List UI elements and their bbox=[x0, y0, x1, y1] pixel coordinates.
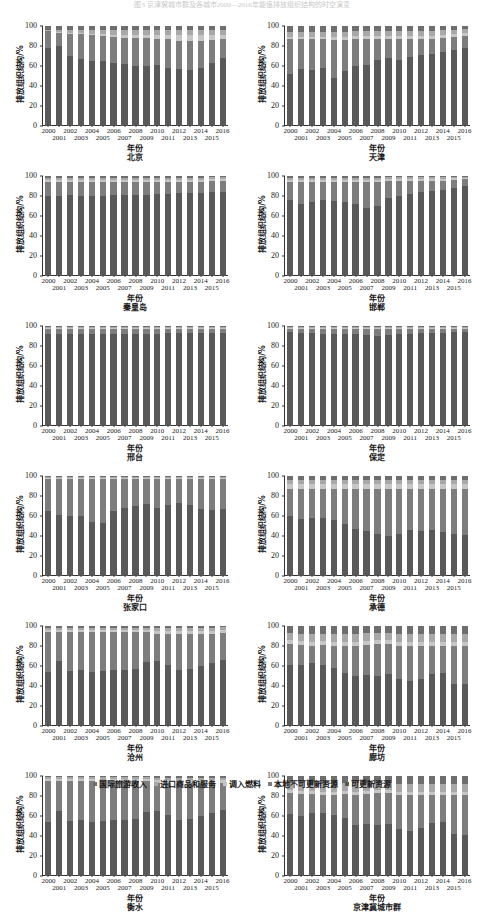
stacked-bar[interactable] bbox=[320, 776, 326, 876]
stacked-bar[interactable] bbox=[45, 776, 51, 876]
stacked-bar[interactable] bbox=[331, 776, 337, 876]
stacked-bar[interactable] bbox=[374, 626, 380, 726]
stacked-bar[interactable] bbox=[287, 326, 293, 426]
stacked-bar[interactable] bbox=[440, 326, 446, 426]
stacked-bar[interactable] bbox=[154, 176, 160, 276]
stacked-bar[interactable] bbox=[198, 476, 204, 576]
stacked-bar[interactable] bbox=[429, 176, 435, 276]
stacked-bar[interactable] bbox=[165, 776, 171, 876]
stacked-bar[interactable] bbox=[462, 776, 468, 876]
stacked-bar[interactable] bbox=[462, 26, 468, 126]
stacked-bar[interactable] bbox=[110, 626, 116, 726]
stacked-bar[interactable] bbox=[320, 176, 326, 276]
stacked-bar[interactable] bbox=[89, 326, 95, 426]
stacked-bar[interactable] bbox=[462, 626, 468, 726]
stacked-bar[interactable] bbox=[67, 626, 73, 726]
stacked-bar[interactable] bbox=[342, 626, 348, 726]
stacked-bar[interactable] bbox=[78, 476, 84, 576]
stacked-bar[interactable] bbox=[187, 776, 193, 876]
stacked-bar[interactable] bbox=[121, 326, 127, 426]
stacked-bar[interactable] bbox=[67, 326, 73, 426]
stacked-bar[interactable] bbox=[78, 326, 84, 426]
stacked-bar[interactable] bbox=[67, 476, 73, 576]
stacked-bar[interactable] bbox=[342, 776, 348, 876]
stacked-bar[interactable] bbox=[110, 776, 116, 876]
stacked-bar[interactable] bbox=[287, 776, 293, 876]
stacked-bar[interactable] bbox=[89, 626, 95, 726]
stacked-bar[interactable] bbox=[154, 626, 160, 726]
stacked-bar[interactable] bbox=[143, 476, 149, 576]
stacked-bar[interactable] bbox=[176, 476, 182, 576]
stacked-bar[interactable] bbox=[287, 26, 293, 126]
stacked-bar[interactable] bbox=[121, 776, 127, 876]
stacked-bar[interactable] bbox=[429, 326, 435, 426]
stacked-bar[interactable] bbox=[209, 176, 215, 276]
stacked-bar[interactable] bbox=[100, 326, 106, 426]
stacked-bar[interactable] bbox=[407, 26, 413, 126]
stacked-bar[interactable] bbox=[320, 326, 326, 426]
stacked-bar[interactable] bbox=[165, 626, 171, 726]
stacked-bar[interactable] bbox=[287, 476, 293, 576]
stacked-bar[interactable] bbox=[440, 176, 446, 276]
stacked-bar[interactable] bbox=[220, 476, 226, 576]
stacked-bar[interactable] bbox=[309, 476, 315, 576]
stacked-bar[interactable] bbox=[89, 476, 95, 576]
stacked-bar[interactable] bbox=[110, 476, 116, 576]
stacked-bar[interactable] bbox=[451, 326, 457, 426]
stacked-bar[interactable] bbox=[176, 26, 182, 126]
stacked-bar[interactable] bbox=[89, 776, 95, 876]
stacked-bar[interactable] bbox=[100, 776, 106, 876]
stacked-bar[interactable] bbox=[56, 476, 62, 576]
stacked-bar[interactable] bbox=[407, 626, 413, 726]
stacked-bar[interactable] bbox=[309, 176, 315, 276]
stacked-bar[interactable] bbox=[132, 26, 138, 126]
stacked-bar[interactable] bbox=[418, 26, 424, 126]
stacked-bar[interactable] bbox=[385, 476, 391, 576]
stacked-bar[interactable] bbox=[209, 26, 215, 126]
stacked-bar[interactable] bbox=[187, 626, 193, 726]
stacked-bar[interactable] bbox=[67, 176, 73, 276]
stacked-bar[interactable] bbox=[154, 326, 160, 426]
stacked-bar[interactable] bbox=[309, 776, 315, 876]
stacked-bar[interactable] bbox=[143, 26, 149, 126]
stacked-bar[interactable] bbox=[78, 626, 84, 726]
stacked-bar[interactable] bbox=[451, 476, 457, 576]
stacked-bar[interactable] bbox=[374, 176, 380, 276]
stacked-bar[interactable] bbox=[298, 26, 304, 126]
stacked-bar[interactable] bbox=[418, 626, 424, 726]
stacked-bar[interactable] bbox=[143, 326, 149, 426]
stacked-bar[interactable] bbox=[220, 326, 226, 426]
stacked-bar[interactable] bbox=[374, 776, 380, 876]
stacked-bar[interactable] bbox=[187, 326, 193, 426]
stacked-bar[interactable] bbox=[352, 26, 358, 126]
stacked-bar[interactable] bbox=[67, 776, 73, 876]
stacked-bar[interactable] bbox=[451, 776, 457, 876]
stacked-bar[interactable] bbox=[110, 176, 116, 276]
stacked-bar[interactable] bbox=[298, 776, 304, 876]
stacked-bar[interactable] bbox=[132, 326, 138, 426]
stacked-bar[interactable] bbox=[440, 476, 446, 576]
stacked-bar[interactable] bbox=[89, 176, 95, 276]
stacked-bar[interactable] bbox=[440, 26, 446, 126]
stacked-bar[interactable] bbox=[396, 26, 402, 126]
stacked-bar[interactable] bbox=[220, 176, 226, 276]
stacked-bar[interactable] bbox=[78, 776, 84, 876]
stacked-bar[interactable] bbox=[418, 476, 424, 576]
stacked-bar[interactable] bbox=[363, 776, 369, 876]
stacked-bar[interactable] bbox=[309, 626, 315, 726]
stacked-bar[interactable] bbox=[45, 326, 51, 426]
stacked-bar[interactable] bbox=[451, 26, 457, 126]
stacked-bar[interactable] bbox=[451, 626, 457, 726]
stacked-bar[interactable] bbox=[462, 326, 468, 426]
stacked-bar[interactable] bbox=[165, 176, 171, 276]
stacked-bar[interactable] bbox=[363, 26, 369, 126]
stacked-bar[interactable] bbox=[209, 476, 215, 576]
stacked-bar[interactable] bbox=[418, 776, 424, 876]
stacked-bar[interactable] bbox=[331, 476, 337, 576]
stacked-bar[interactable] bbox=[154, 776, 160, 876]
stacked-bar[interactable] bbox=[385, 176, 391, 276]
stacked-bar[interactable] bbox=[89, 26, 95, 126]
stacked-bar[interactable] bbox=[407, 476, 413, 576]
stacked-bar[interactable] bbox=[352, 626, 358, 726]
stacked-bar[interactable] bbox=[451, 176, 457, 276]
